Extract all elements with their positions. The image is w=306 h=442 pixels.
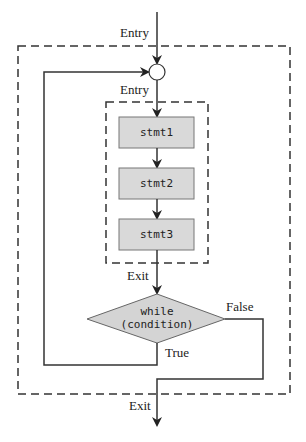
condition-line2: (condition): [121, 318, 194, 331]
merge-circle-icon: [149, 64, 165, 80]
exit-inner-label: Exit: [127, 268, 149, 283]
statement-box-stmt1: stmt1: [119, 117, 194, 148]
true-label: True: [165, 345, 189, 360]
exit-outer-label: Exit: [129, 398, 151, 413]
condition-diamond: while (condition): [87, 294, 225, 343]
entry-inner-label: Entry: [120, 82, 149, 97]
statement-box-stmt2: stmt2: [119, 168, 194, 199]
false-label: False: [226, 299, 254, 314]
statement-box-stmt3: stmt3: [119, 219, 194, 250]
while-loop-flowchart: Entry Entry stmt1 stmt2 stmt3 Exit while…: [0, 0, 306, 442]
stmt3-label: stmt3: [140, 228, 173, 241]
condition-line1: while: [140, 305, 173, 318]
stmt2-label: stmt2: [140, 177, 173, 190]
entry-outer-label: Entry: [120, 25, 149, 40]
stmt1-label: stmt1: [140, 126, 173, 139]
